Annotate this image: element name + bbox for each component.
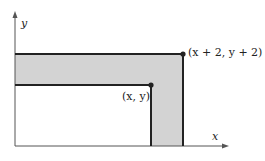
shaded-border-region xyxy=(15,54,183,146)
diagram-canvas: y x (x, y) (x + 2, y + 2) xyxy=(0,0,265,161)
inner-corner-point xyxy=(148,82,153,87)
inner-point-label: (x, y) xyxy=(122,90,150,103)
outer-point-label: (x + 2, y + 2) xyxy=(188,46,262,59)
x-axis-label: x xyxy=(212,130,219,143)
x-axis-arrow-icon xyxy=(222,144,229,149)
y-axis-arrow-icon xyxy=(13,11,18,18)
y-axis-label: y xyxy=(20,17,28,30)
outer-corner-point xyxy=(180,51,185,56)
